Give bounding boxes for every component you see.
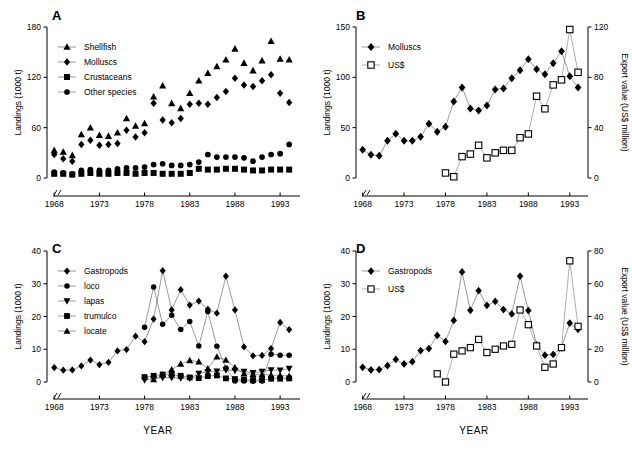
datapoint-other-species: [133, 165, 139, 171]
datapoint-molluscs: [442, 123, 449, 131]
x-tick-label: 1978: [436, 199, 455, 209]
datapoint-shellfish: [277, 55, 284, 62]
datapoint-us-: [533, 93, 539, 99]
datapoint-us-: [442, 379, 448, 385]
datapoint-trumulco: [250, 377, 256, 383]
datapoint-molluscs: [376, 152, 383, 160]
y-axis-left-title: Landings (1000 t): [13, 283, 23, 349]
datapoint-locate: [168, 366, 175, 372]
series-line-us-: [437, 261, 578, 382]
datapoint-other-species: [277, 151, 283, 157]
datapoint-us-: [509, 341, 515, 347]
datapoint-gastropods: [393, 356, 400, 364]
datapoint-gastropods: [368, 366, 375, 374]
x-tick-label: 1988: [225, 402, 244, 412]
datapoint-loco: [187, 319, 193, 325]
legend-label-locate: locate: [84, 326, 107, 336]
datapoint-shellfish: [195, 77, 202, 84]
x-tick-label: 1978: [135, 199, 154, 209]
datapoint-other-species: [169, 163, 175, 169]
y-tick-label: 10: [341, 344, 351, 354]
x-tick-label: 1978: [436, 402, 455, 412]
datapoint-trumulco: [178, 373, 184, 379]
datapoint-gastropods: [250, 352, 256, 359]
legend-label-gastropods: Gastropods: [84, 266, 128, 276]
datapoint-other-species: [286, 142, 292, 148]
y-axis-right-title: Export value (US$ million): [620, 267, 630, 365]
datapoint-crustaceans: [169, 171, 175, 177]
datapoint-us-: [558, 77, 564, 83]
x-tick-label: 1973: [90, 199, 109, 209]
x-tick-label: 1978: [135, 402, 154, 412]
datapoint-other-species: [88, 167, 94, 173]
datapoint-other-species: [78, 168, 84, 174]
datapoint-trumulco: [169, 372, 175, 378]
datapoint-gastropods: [51, 364, 57, 371]
x-tick-label: 1993: [271, 402, 290, 412]
y-tick-label-right: 0: [594, 173, 599, 183]
y-tick-label: 0: [36, 377, 41, 387]
datapoint-us-: [451, 351, 457, 357]
datapoint-locate: [231, 364, 238, 370]
datapoint-shellfish: [150, 93, 157, 100]
x-tick-label: 1988: [225, 199, 244, 209]
datapoint-gastropods: [187, 301, 193, 308]
y-tick-label-right: 40: [594, 123, 604, 133]
datapoint-molluscs: [409, 137, 416, 145]
y-tick-label: 0: [36, 173, 41, 183]
datapoint-molluscs: [96, 142, 102, 150]
datapoint-us-: [500, 343, 506, 349]
datapoint-gastropods: [69, 366, 75, 373]
datapoint-locate: [186, 357, 193, 363]
datapoint-shellfish: [286, 56, 293, 63]
datapoint-us-: [558, 345, 564, 351]
y-tick-label: 50: [341, 123, 351, 133]
datapoint-gastropods: [484, 301, 491, 309]
datapoint-gastropods: [241, 343, 247, 350]
datapoint-gastropods: [277, 319, 283, 326]
datapoint-shellfish: [114, 129, 121, 136]
datapoint-crustaceans: [187, 170, 193, 176]
datapoint-us-: [542, 364, 548, 370]
datapoint-gastropods: [376, 366, 383, 374]
datapoint-loco: [142, 325, 148, 331]
legend-label-molluscs: Molluscs: [84, 57, 117, 67]
datapoint-crustaceans: [142, 170, 148, 176]
datapoint-other-species: [250, 158, 256, 164]
datapoint-us-: [542, 106, 548, 112]
datapoint-shellfish: [69, 152, 76, 159]
datapoint-gastropods: [467, 306, 474, 314]
datapoint-molluscs: [87, 137, 93, 145]
datapoint-shellfish: [186, 90, 193, 97]
datapoint-other-species: [151, 162, 157, 168]
datapoint-gastropods: [96, 361, 102, 368]
datapoint-other-species: [124, 165, 130, 171]
datapoint-gastropods: [259, 352, 265, 359]
datapoint-us-: [575, 69, 581, 75]
datapoint-us-: [550, 361, 556, 367]
datapoint-trumulco: [142, 374, 148, 380]
legend-label-trumulco: trumulco: [84, 311, 117, 321]
datapoint-us-: [492, 150, 498, 156]
legend-label-loco: loco: [84, 281, 100, 291]
datapoint-us-: [525, 322, 531, 328]
datapoint-us-: [476, 336, 482, 342]
datapoint-gastropods: [133, 333, 139, 340]
datapoint-us-: [517, 135, 523, 141]
x-tick-label: 1993: [560, 199, 579, 209]
y-axis-left-title: Landings (1000 t): [13, 69, 23, 135]
datapoint-us-: [459, 153, 465, 159]
figure-root: A 060120180Landings (1000 t)196819731978…: [0, 0, 632, 459]
y-tick-label: 100: [336, 72, 350, 82]
datapoint-other-species: [268, 152, 274, 158]
datapoint-shellfish: [231, 45, 238, 52]
legend-marker-trumulco: [64, 313, 70, 319]
datapoint-gastropods: [87, 356, 93, 363]
legend-marker-us-: [368, 62, 374, 68]
datapoint-crustaceans: [196, 166, 202, 172]
datapoint-shellfish: [159, 82, 166, 89]
panel-b: B 05010015004080120Export value (US$ mil…: [316, 0, 632, 229]
datapoint-other-species: [223, 154, 229, 160]
datapoint-loco: [205, 309, 211, 315]
datapoint-gastropods: [401, 360, 408, 368]
